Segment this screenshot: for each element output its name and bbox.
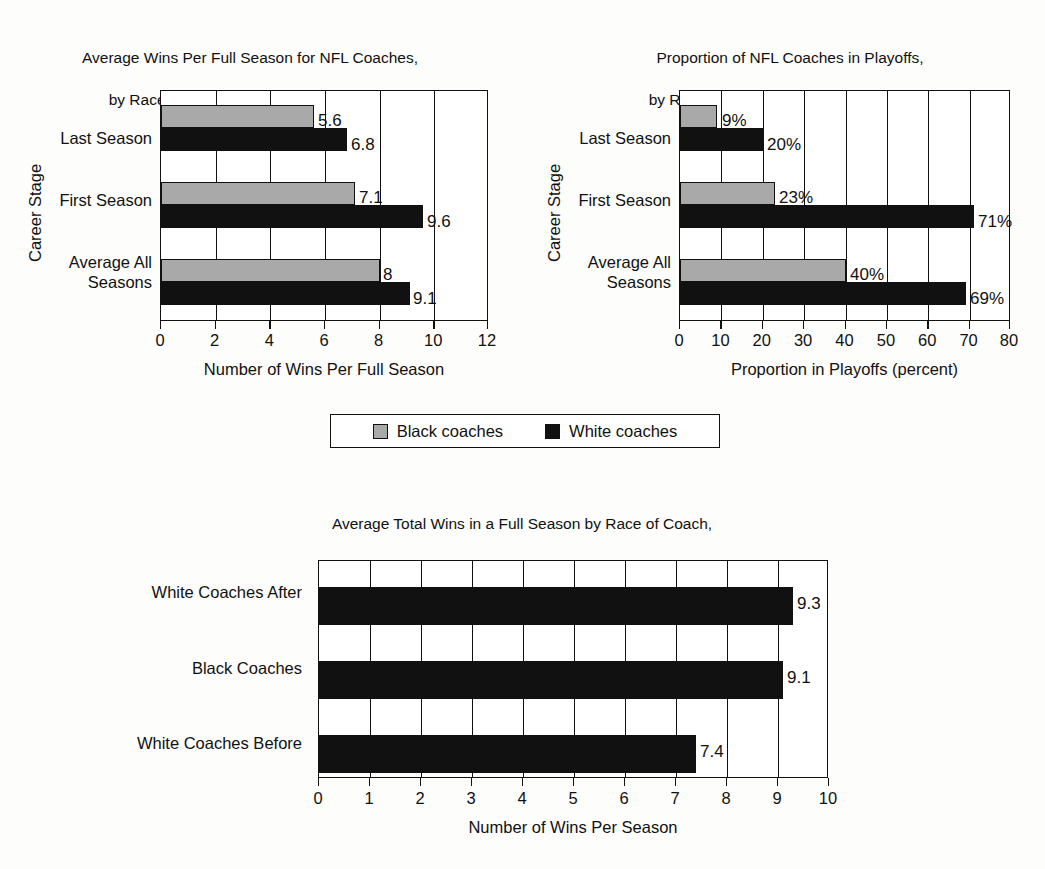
chart2-xtick-20: 20: [742, 332, 782, 349]
chart2-tickmark-80: [1009, 321, 1010, 329]
chart1-yaxis-title: Career Stage: [26, 164, 45, 262]
legend-label-black-coaches: Black coaches: [397, 422, 503, 441]
chart2-value-first-season-black: 23%: [779, 189, 813, 206]
chart3-ytick-black-coaches: Black Coaches: [70, 658, 302, 678]
chart2-xtick-50: 50: [866, 332, 906, 349]
chart1-bar-last-season-black-coaches: [161, 105, 314, 128]
chart1-tickmark-0: [160, 321, 161, 329]
chart1-value-last-season-black: 5.6: [318, 112, 342, 129]
chart2-tickmark-10: [720, 321, 721, 329]
chart1-xtick-10: 10: [413, 332, 453, 349]
gray-swatch-icon: [373, 424, 388, 439]
chart1-tickmark-4: [269, 321, 270, 329]
legend-item-white-coaches[interactable]: White coaches: [545, 422, 677, 441]
chart3-tickmark-10: [828, 778, 829, 786]
black-swatch-icon: [545, 424, 560, 439]
chart3-xtick-3: 3: [451, 790, 491, 807]
chart3-xtick-10: 10: [808, 790, 848, 807]
chart3-xtick-8: 8: [706, 790, 746, 807]
chart1-gridline-10: [434, 91, 435, 320]
chart1-tickmark-6: [324, 321, 325, 329]
chart1-tickmark-12: [487, 321, 488, 329]
chart1-title-line1: Average Wins Per Full Season for NFL Coa…: [10, 47, 490, 68]
chart3-ytick-white-coaches-before: White Coaches Before: [70, 733, 302, 753]
chart3-ytick-white-coaches-after: White Coaches After: [70, 582, 302, 602]
chart2-ytick-average-all-seasons: Average All Seasons: [529, 252, 671, 292]
chart1-bar-first-season-black-coaches: [161, 182, 355, 205]
chart3-bar-white-coaches-after: [319, 587, 793, 625]
chart2-yaxis-title: Career Stage: [545, 164, 564, 262]
chart1-ytick-average-all-seasons: Average All Seasons: [10, 252, 152, 292]
legend: Black coaches White coaches: [330, 414, 720, 448]
chart2-tickmark-40: [845, 321, 846, 329]
chart2-value-last-season-white: 20%: [767, 136, 801, 153]
chart1-xtick-8: 8: [359, 332, 399, 349]
chart2-tickmark-50: [886, 321, 887, 329]
chart3-xtick-1: 1: [349, 790, 389, 807]
chart3-xtick-6: 6: [604, 790, 644, 807]
chart1-xtick-6: 6: [304, 332, 344, 349]
chart1-xtick-2: 2: [195, 332, 235, 349]
chart1-value-first-season-black: 7.1: [359, 189, 383, 206]
chart3-bar-black-coaches: [319, 661, 783, 699]
legend-item-black-coaches[interactable]: Black coaches: [373, 422, 503, 441]
chart2-bar-first-season-white-coaches: [680, 205, 974, 228]
chart3-tickmark-8: [726, 778, 727, 786]
chart3-tickmark-5: [573, 778, 574, 786]
chart3-tickmark-2: [420, 778, 421, 786]
chart3-xtick-0: 0: [298, 790, 338, 807]
chart3-xtick-7: 7: [655, 790, 695, 807]
chart1-tickmark-2: [215, 321, 216, 329]
chart1-value-last-season-white: 6.8: [351, 136, 375, 153]
chart2-tickmark-60: [927, 321, 928, 329]
chart2-xtick-70: 70: [949, 332, 989, 349]
chart2-bar-average-all-seasons-white-coaches: [680, 282, 966, 305]
chart3-xtick-4: 4: [502, 790, 542, 807]
chart2-tickmark-30: [803, 321, 804, 329]
chart2-tickmark-0: [679, 321, 680, 329]
chart3-tickmark-7: [675, 778, 676, 786]
chart2-xtick-60: 60: [907, 332, 947, 349]
chart3-xtick-2: 2: [400, 790, 440, 807]
chart1-tickmark-10: [433, 321, 434, 329]
chart3-xtick-5: 5: [553, 790, 593, 807]
chart3-value-white-coaches-after: 9.3: [797, 595, 821, 612]
chart1-xtick-0: 0: [140, 332, 180, 349]
chart2-tickmark-70: [969, 321, 970, 329]
chart1-value-average-all-black: 8: [383, 266, 392, 283]
chart1-ytick-first-season: First Season: [10, 190, 152, 210]
chart1-bar-average-all-seasons-black-coaches: [161, 259, 380, 282]
chart2-bar-last-season-black-coaches: [680, 105, 717, 128]
chart2-value-average-all-white: 69%: [970, 290, 1004, 307]
chart3-tickmark-1: [369, 778, 370, 786]
chart3-tickmark-4: [522, 778, 523, 786]
chart1-xtick-4: 4: [249, 332, 289, 349]
chart1-xaxis-title: Number of Wins Per Full Season: [160, 360, 488, 379]
legend-label-white-coaches: White coaches: [569, 422, 677, 441]
chart3-plot-area: [318, 560, 828, 778]
chart1-bar-last-season-white-coaches: [161, 128, 347, 151]
chart3-value-black-coaches: 9.1: [787, 669, 811, 686]
chart1-value-first-season-white: 9.6: [427, 213, 451, 230]
chart2-xaxis-title: Proportion in Playoffs (percent): [679, 360, 1010, 379]
chart2-xtick-10: 10: [700, 332, 740, 349]
chart3-xaxis-title: Number of Wins Per Season: [318, 818, 828, 837]
chart2-xtick-40: 40: [825, 332, 865, 349]
chart1-ytick-last-season: Last Season: [10, 128, 152, 148]
chart2-xtick-30: 30: [783, 332, 823, 349]
chart3-title-line1: Average Total Wins in a Full Season by R…: [222, 513, 822, 534]
chart2-bar-first-season-black-coaches: [680, 182, 775, 205]
chart3-tickmark-3: [471, 778, 472, 786]
chart1-bar-first-season-white-coaches: [161, 205, 423, 228]
chart2-title-line1: Proportion of NFL Coaches in Playoffs,: [555, 47, 1025, 68]
chart1-tickmark-8: [379, 321, 380, 329]
chart2-bar-last-season-white-coaches: [680, 128, 763, 151]
chart3-xtick-9: 9: [757, 790, 797, 807]
chart2-xtick-0: 0: [659, 332, 699, 349]
chart1-bar-average-all-seasons-white-coaches: [161, 282, 410, 305]
chart2-value-last-season-black: 9%: [722, 112, 747, 129]
chart2-bar-average-all-seasons-black-coaches: [680, 259, 846, 282]
chart1-xtick-12: 12: [467, 332, 507, 349]
chart2-value-first-season-white: 71%: [978, 213, 1012, 230]
chart3-tickmark-6: [624, 778, 625, 786]
